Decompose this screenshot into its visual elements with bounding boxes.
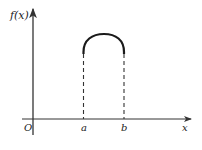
point-b-label: b — [121, 122, 127, 133]
x-axis-label: x — [182, 122, 188, 133]
function-graph: f(x) O a b x — [0, 0, 202, 150]
origin-label: O — [24, 122, 32, 133]
point-a-label: a — [81, 122, 87, 133]
y-axis-label: f(x) — [9, 9, 29, 22]
function-curve — [84, 34, 125, 54]
